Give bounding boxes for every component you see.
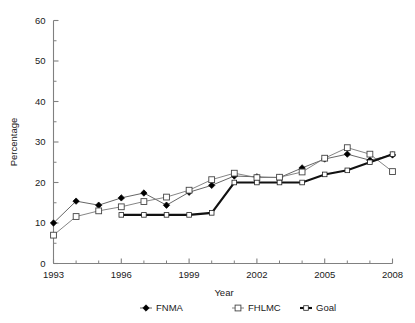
line-chart: 0102030405060 199319961999200220052008 P… (0, 0, 415, 323)
data-point-fhlmc (186, 187, 192, 193)
data-point-goal (142, 213, 147, 218)
chart-container: 0102030405060 199319961999200220052008 P… (0, 0, 415, 323)
y-tick-label: 0 (40, 258, 45, 269)
series-goal (119, 152, 395, 217)
legend-label-goal: Goal (316, 302, 336, 313)
data-point-goal (187, 213, 192, 218)
x-tick-label: 2005 (314, 269, 335, 280)
data-point-goal (232, 180, 237, 185)
y-tick-label: 10 (35, 217, 46, 228)
data-point-fhlmc (141, 199, 147, 205)
data-point-fhlmc (209, 177, 215, 183)
data-point-goal (368, 160, 373, 165)
y-tick-label: 50 (35, 55, 46, 66)
data-point-fnma (96, 202, 102, 208)
data-point-fhlmc (277, 174, 283, 180)
data-point-fnma (209, 182, 215, 188)
data-point-fhlmc (367, 151, 373, 157)
chart-legend: FNMAFHLMCGoal (140, 302, 336, 313)
data-point-fnma (344, 151, 350, 157)
data-point-fhlmc (322, 155, 328, 161)
legend-item-fnma[interactable]: FNMA (140, 302, 184, 313)
data-point-fhlmc (96, 208, 102, 214)
data-point-fnma (143, 305, 149, 311)
data-point-fhlmc (254, 175, 260, 181)
data-point-fhlmc (231, 170, 237, 176)
data-point-goal (300, 180, 305, 185)
y-axis: 0102030405060 (35, 15, 59, 269)
x-axis: 199319961999200220052008 (43, 259, 403, 280)
data-point-fhlmc (118, 204, 124, 210)
y-tick-label: 30 (35, 136, 46, 147)
data-point-goal (255, 180, 260, 185)
y-tick-label: 20 (35, 177, 46, 188)
legend-item-goal[interactable]: Goal (300, 302, 336, 313)
data-point-goal (164, 213, 169, 218)
data-point-fhlmc (73, 214, 79, 220)
data-point-fhlmc (235, 305, 241, 311)
y-tick-label: 40 (35, 96, 46, 107)
data-point-fnma (118, 195, 124, 201)
data-point-goal (277, 180, 282, 185)
y-tick-label: 60 (35, 15, 46, 26)
legend-label-fhlmc: FHLMC (248, 302, 281, 313)
x-tick-label: 1993 (43, 269, 64, 280)
x-tick-label: 1999 (179, 269, 200, 280)
data-point-fhlmc (299, 169, 305, 175)
data-series-group (50, 145, 395, 238)
data-point-goal (322, 172, 327, 177)
x-tick-label: 1996 (111, 269, 132, 280)
series-fnma (50, 151, 395, 226)
series-fhlmc (51, 145, 396, 238)
data-point-fnma (163, 202, 169, 208)
y-axis-title: Percentage (8, 118, 19, 167)
data-point-goal (304, 306, 309, 311)
data-point-fhlmc (390, 169, 396, 175)
data-point-goal (209, 211, 214, 216)
series-line-fnma (54, 154, 393, 223)
data-point-goal (390, 152, 395, 157)
data-point-fhlmc (164, 194, 170, 200)
data-point-goal (345, 168, 350, 173)
x-tick-label: 2008 (382, 269, 403, 280)
data-point-goal (119, 213, 124, 218)
legend-item-fhlmc[interactable]: FHLMC (232, 302, 281, 313)
x-tick-label: 2002 (246, 269, 267, 280)
data-point-fhlmc (344, 145, 350, 151)
legend-label-fnma: FNMA (156, 302, 184, 313)
data-point-fnma (141, 190, 147, 196)
series-line-fhlmc (54, 148, 393, 235)
data-point-fhlmc (51, 232, 57, 238)
x-axis-title: Year (214, 287, 233, 298)
